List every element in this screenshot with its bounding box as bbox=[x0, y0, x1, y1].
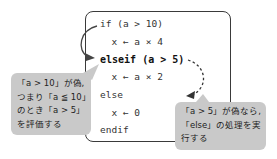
callout-right: 「a > 5」が偽なら, 「else」の処理を実 行する bbox=[175, 102, 266, 150]
code-line-if: if (a > 10) bbox=[100, 18, 163, 30]
callout-right-line-2: 「else」の処理を実 bbox=[181, 119, 260, 133]
code-line-x-0: x ← 0 bbox=[100, 107, 140, 119]
code-line-else: else bbox=[100, 89, 123, 101]
code-line-endif: endif bbox=[100, 124, 129, 136]
callout-left-line-1: 「a > 10」が偽, bbox=[17, 77, 85, 91]
callout-right-line-3: 行する bbox=[181, 132, 260, 146]
callout-left: 「a > 10」が偽, つまり「a ≦ 10」 のとき「a > 5」 を評価する bbox=[11, 73, 91, 135]
code-line-x-a2: x ← a × 2 bbox=[100, 71, 163, 83]
callout-left-line-3: のとき「a > 5」 bbox=[17, 104, 85, 118]
code-line-elseif: elseif (a > 5) bbox=[100, 54, 184, 66]
callout-right-line-1: 「a > 5」が偽なら, bbox=[181, 105, 260, 119]
callout-left-line-4: を評価する bbox=[17, 118, 85, 132]
code-line-x-a4: x ← a × 4 bbox=[100, 36, 163, 48]
callout-left-line-2: つまり「a ≦ 10」 bbox=[17, 91, 85, 105]
